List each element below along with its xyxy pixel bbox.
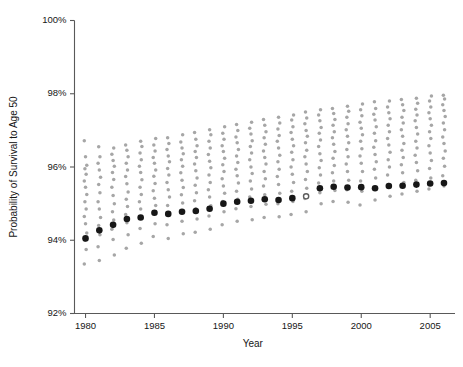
group-data-point <box>415 189 419 193</box>
group-data-point <box>248 126 252 130</box>
group-data-point <box>113 165 117 169</box>
group-data-point <box>151 235 155 239</box>
group-data-point <box>236 129 240 133</box>
group-data-point <box>317 113 321 117</box>
group-data-point <box>319 126 323 130</box>
group-data-point <box>97 224 101 228</box>
group-data-point <box>331 200 335 204</box>
group-data-point <box>222 150 226 154</box>
group-data-point <box>428 151 432 155</box>
group-data-point <box>332 179 336 183</box>
group-data-point <box>290 189 294 193</box>
group-data-point <box>277 167 281 171</box>
group-data-point <box>138 151 142 155</box>
group-data-point <box>98 207 102 211</box>
group-data-point <box>236 161 240 165</box>
group-data-point <box>179 171 183 175</box>
overall-data-point <box>261 196 268 203</box>
group-data-point <box>165 148 169 152</box>
group-data-point <box>195 217 199 221</box>
group-data-point <box>317 145 321 149</box>
group-data-point <box>208 159 212 163</box>
group-data-point <box>111 159 115 163</box>
group-data-point <box>415 113 419 117</box>
group-data-point <box>168 195 172 199</box>
overall-data-point <box>110 222 117 229</box>
group-data-point <box>346 122 350 126</box>
group-data-point <box>401 156 405 160</box>
group-data-point <box>400 128 404 132</box>
group-data-point <box>140 158 144 162</box>
group-data-point <box>125 162 128 166</box>
group-data-point <box>318 152 322 156</box>
group-data-point <box>264 177 268 181</box>
group-data-point <box>429 137 433 141</box>
group-data-point <box>208 181 212 185</box>
group-data-point <box>222 137 226 141</box>
group-data-point <box>388 151 392 155</box>
group-data-point <box>235 174 239 178</box>
group-data-point <box>248 158 252 162</box>
group-data-point <box>318 132 322 136</box>
group-data-point <box>181 133 185 137</box>
group-data-point <box>140 145 144 149</box>
group-data-point <box>305 148 309 152</box>
group-data-point <box>388 99 392 103</box>
group-data-point <box>98 168 102 172</box>
group-data-point <box>344 128 348 132</box>
group-data-point <box>386 137 390 141</box>
group-data-point <box>276 140 280 144</box>
group-data-point <box>182 232 186 236</box>
overall-data-point <box>413 181 420 188</box>
group-data-point <box>139 171 143 175</box>
group-data-point <box>277 115 281 119</box>
group-data-point <box>179 140 183 144</box>
group-data-point <box>359 140 363 144</box>
group-data-point <box>400 115 404 119</box>
group-data-point <box>96 245 100 249</box>
group-data-point <box>96 200 100 204</box>
group-data-point <box>373 118 377 122</box>
group-data-point <box>264 162 268 166</box>
group-data-point <box>430 159 434 163</box>
group-data-point <box>289 165 293 169</box>
x-tick-label: 2000 <box>351 320 372 331</box>
group-data-point <box>388 165 392 169</box>
group-data-point <box>180 219 184 223</box>
group-data-point <box>112 146 116 150</box>
group-data-point <box>208 146 212 150</box>
overall-data-point <box>289 195 296 202</box>
axis-lines <box>75 21 456 314</box>
overall-data-point <box>193 208 200 215</box>
group-data-point <box>83 215 87 219</box>
y-tick-label: 94% <box>47 234 67 245</box>
y-tick-label: 100% <box>42 14 67 25</box>
y-axis-title: Probability of Survival to Age 50 <box>8 96 19 238</box>
group-data-point <box>374 139 378 143</box>
group-data-point <box>400 98 404 102</box>
group-data-point <box>277 183 281 187</box>
group-data-point <box>277 134 281 138</box>
group-data-point <box>85 193 89 197</box>
overall-data-point <box>124 216 131 223</box>
group-data-point <box>85 163 89 167</box>
group-data-point <box>126 190 130 194</box>
group-data-point <box>138 227 142 231</box>
group-data-point <box>415 146 419 150</box>
group-data-point <box>416 169 420 173</box>
group-data-point <box>306 170 310 174</box>
group-data-point <box>360 147 364 151</box>
overall-data-point <box>399 182 406 189</box>
group-data-point <box>292 144 296 148</box>
group-data-point <box>347 178 351 182</box>
group-data-point <box>194 137 198 141</box>
overall-data-point <box>151 209 158 216</box>
group-data-point <box>291 137 295 141</box>
overall-data-point <box>427 180 434 187</box>
group-data-point <box>319 108 323 112</box>
group-data-point <box>249 132 253 136</box>
group-data-point <box>98 155 102 159</box>
group-data-point <box>400 192 404 196</box>
group-data-point <box>415 126 419 130</box>
group-data-point <box>167 237 171 241</box>
